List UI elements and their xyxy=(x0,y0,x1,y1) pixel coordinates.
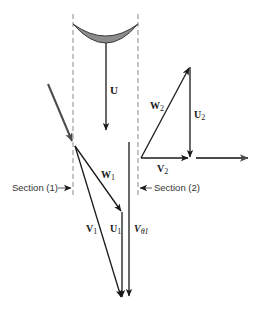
label-U2: U2 xyxy=(194,109,205,122)
label-U: U xyxy=(110,84,118,96)
label-W2: W2 xyxy=(150,100,164,113)
vector-W2 xyxy=(141,68,189,158)
velocity-triangle-diagram: U W1 V1 U1 Vθ1 Section (1) Section (2) xyxy=(0,0,262,309)
inlet-flow-arrow xyxy=(48,84,72,141)
label-U1: U1 xyxy=(110,223,121,236)
blade xyxy=(73,24,138,43)
section-1-label: Section (1) xyxy=(12,182,58,193)
label-V2: V2 xyxy=(157,163,168,176)
label-V1: V1 xyxy=(86,223,97,236)
vector-V1 xyxy=(75,146,121,297)
section-2-label: Section (2) xyxy=(154,182,200,193)
label-Vtheta1: Vθ1 xyxy=(134,223,149,236)
label-W1: W1 xyxy=(101,169,115,182)
